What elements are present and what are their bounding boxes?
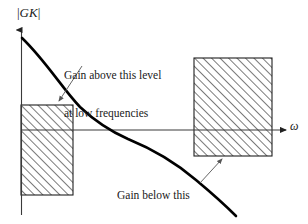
- annotation-high-gain-line-1: Gain above this level: [64, 69, 161, 82]
- gain-specification-figure: |GK| ω Gain above this level at low freq…: [0, 0, 308, 224]
- y-axis-label-bar-close: |: [38, 5, 41, 20]
- annotation-high-gain: Gain above this level at low frequencies: [64, 43, 161, 146]
- annotation-high-gain-line-2: at low frequencies: [64, 107, 161, 120]
- y-axis-label-variable: GK: [20, 5, 38, 20]
- high-frequency-constraint-box: [194, 58, 272, 156]
- leader-line-low-gain: [200, 159, 222, 183]
- annotation-low-gain-line-1: Gain below this: [117, 189, 190, 202]
- y-axis-label: |GK|: [17, 6, 40, 21]
- annotation-low-gain: Gain below this level at high frequencie…: [117, 163, 190, 224]
- x-axis-label: ω: [290, 120, 298, 133]
